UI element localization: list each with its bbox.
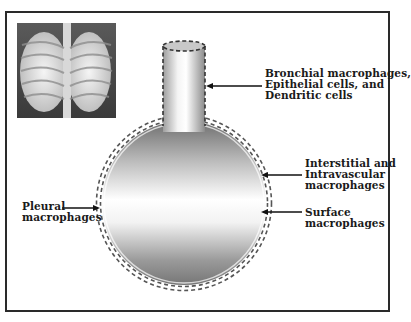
label-interstitial-macrophages: Interstitial and Intravascular macrophag… xyxy=(305,158,396,191)
label-line: macrophages xyxy=(22,212,102,223)
bronchiole-cylinder xyxy=(163,41,205,132)
label-line: macrophages xyxy=(305,218,385,229)
chest-xray-icon xyxy=(17,23,116,118)
label-line: macrophages xyxy=(305,180,396,191)
label-line: Dendritic cells xyxy=(265,90,411,101)
label-surface-macrophages: Surface macrophages xyxy=(305,207,385,229)
label-pleural-macrophages: Pleural macrophages xyxy=(22,201,102,223)
alveolus-sphere xyxy=(97,116,272,291)
label-bronchial-macrophages: Bronchial macrophages, Epithelial cells,… xyxy=(265,68,411,101)
